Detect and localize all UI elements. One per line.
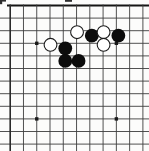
go-board[interactable] bbox=[0, 0, 149, 151]
white-stone-1[interactable] bbox=[71, 26, 84, 39]
scan-artifact-2 bbox=[0, 0, 6, 2]
black-stone-1[interactable] bbox=[85, 29, 99, 43]
white-stone-4[interactable] bbox=[44, 38, 57, 51]
star-point-4 bbox=[115, 117, 118, 120]
white-stone-2[interactable] bbox=[97, 26, 110, 39]
go-diagram-screenshot bbox=[0, 0, 149, 151]
star-point-3 bbox=[35, 117, 38, 120]
black-stone-4[interactable] bbox=[58, 54, 72, 68]
star-point-1 bbox=[35, 42, 38, 45]
white-stone-3[interactable] bbox=[97, 38, 110, 51]
black-stone-5[interactable] bbox=[72, 54, 86, 68]
paper-background bbox=[0, 0, 149, 151]
black-stone-2[interactable] bbox=[111, 29, 125, 43]
scan-artifact-3 bbox=[65, 0, 72, 2]
black-stone-3[interactable] bbox=[58, 41, 72, 55]
